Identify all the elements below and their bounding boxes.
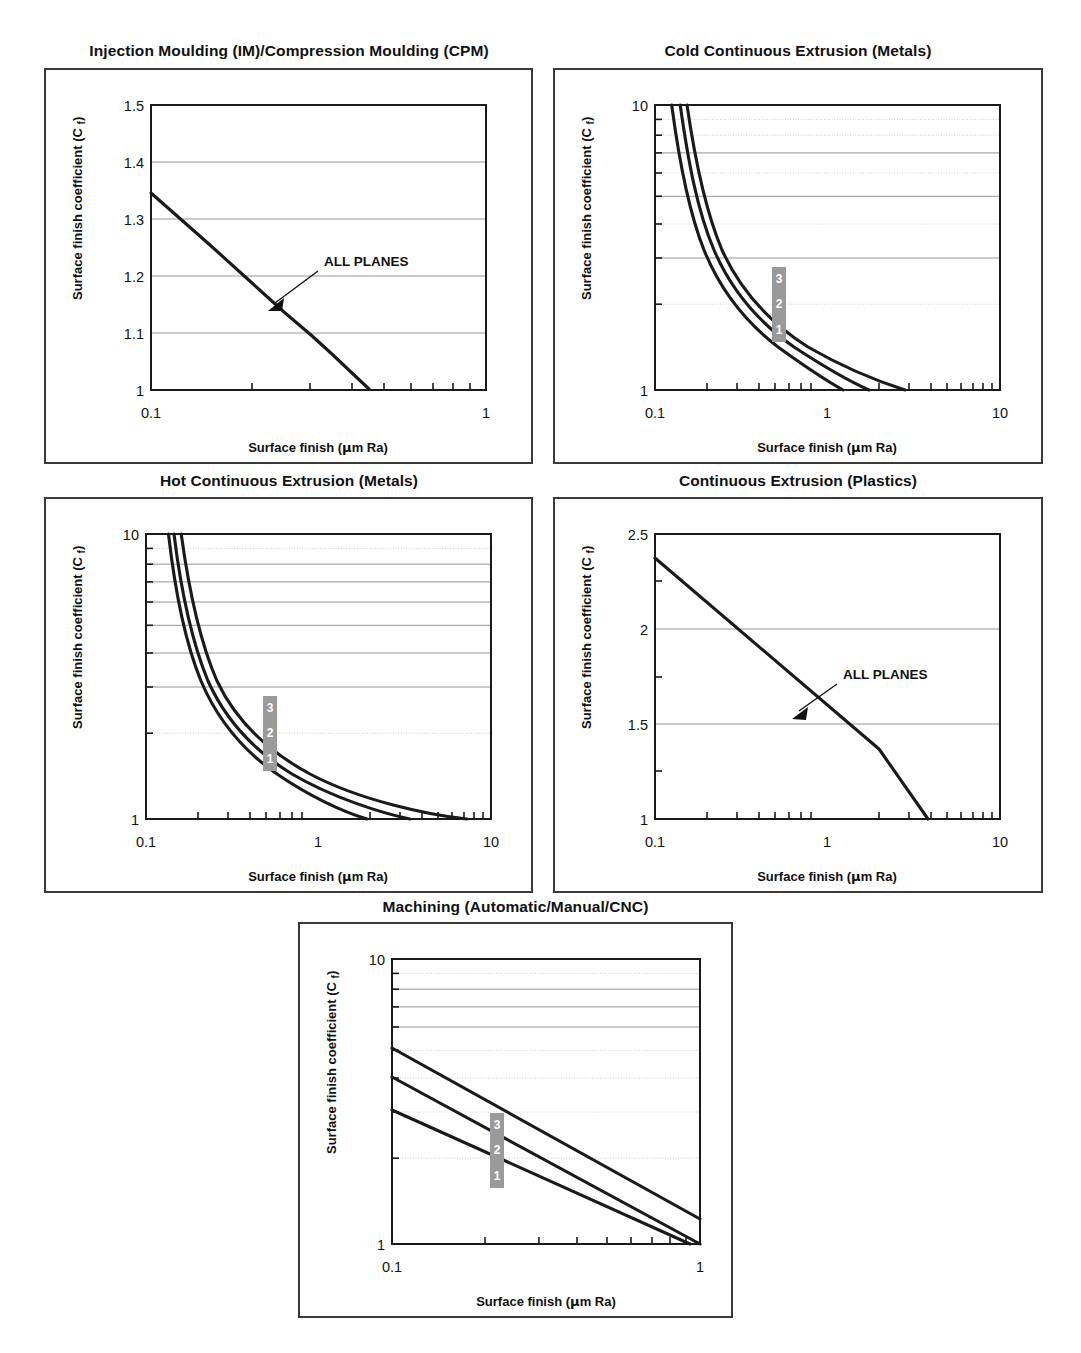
- x-tick-labels: 0.1 1 10: [645, 834, 1008, 850]
- y-minor-ticks: [146, 548, 153, 733]
- gridlines: [655, 119, 1000, 304]
- svg-text:10: 10: [483, 834, 499, 850]
- y-tick-labels: 10 1: [369, 952, 385, 1253]
- y-minor-ticks: [392, 973, 399, 1158]
- svg-text:1.4: 1.4: [124, 155, 144, 171]
- x-tick-labels: 0.1 1: [382, 1259, 704, 1275]
- series-1: [672, 105, 843, 390]
- panel-title-continuous-extrusion-plastics: Continuous Extrusion (Plastics): [553, 472, 1043, 490]
- gridlines: [655, 629, 1000, 724]
- series-all-planes: [655, 558, 928, 819]
- gridlines: [146, 548, 491, 733]
- y-tick-labels: 2.5 2 1.5 1: [628, 527, 648, 828]
- svg-text:1: 1: [696, 1259, 704, 1275]
- chart-cold-continuous-extrusion: Surface finish coefficient (C f) 10 1: [555, 70, 1041, 462]
- panel-cold-continuous-extrusion: Surface finish coefficient (C f) 10 1: [553, 68, 1043, 464]
- plot-frame: [151, 105, 486, 390]
- svg-text:10: 10: [992, 834, 1008, 850]
- svg-text:10: 10: [123, 527, 139, 543]
- annotation-all-planes: ALL PLANES: [268, 254, 409, 311]
- svg-text:2: 2: [267, 726, 274, 740]
- x-tick-labels: 0.1 1 10: [645, 405, 1008, 421]
- svg-text:1: 1: [267, 752, 274, 766]
- plot-frame: [655, 105, 1000, 390]
- x-axis-label: Surface finish (μm Ra): [476, 1294, 616, 1309]
- y-tick-labels: 1.5 1.4 1.3 1.2 1.1 1: [124, 98, 144, 399]
- svg-text:1: 1: [776, 323, 783, 337]
- panel-title-cold-continuous-extrusion: Cold Continuous Extrusion (Metals): [553, 42, 1043, 60]
- svg-text:2: 2: [776, 297, 783, 311]
- svg-text:1.5: 1.5: [124, 98, 144, 114]
- svg-text:1: 1: [131, 812, 139, 828]
- y-axis-label: Surface finish coefficient (C f): [579, 117, 596, 300]
- x-axis-label: Surface finish (μm Ra): [248, 440, 388, 455]
- svg-text:0.1: 0.1: [136, 834, 156, 850]
- svg-text:1: 1: [377, 1237, 385, 1253]
- svg-text:3: 3: [267, 701, 274, 715]
- chart-hot-continuous-extrusion: Surface finish coefficient (C f) 10 1: [46, 499, 531, 891]
- series-2: [174, 534, 410, 819]
- x-minor-ticks: [485, 1237, 686, 1244]
- x-minor-ticks: [707, 383, 992, 390]
- x-axis-label: Surface finish (μm Ra): [757, 869, 897, 884]
- svg-text:1: 1: [640, 812, 648, 828]
- chart-machining: Surface finish coefficient (C f) 10 1: [300, 924, 731, 1316]
- svg-text:1: 1: [823, 405, 831, 421]
- svg-text:1.2: 1.2: [124, 269, 144, 285]
- panel-injection-moulding: Surface finish coefficient (C f) 1.5 1.4…: [44, 68, 533, 464]
- series-2: [392, 1077, 700, 1244]
- series-1: [169, 534, 368, 819]
- panel-title-hot-continuous-extrusion: Hot Continuous Extrusion (Metals): [44, 472, 534, 490]
- y-axis-label: Surface finish coefficient (C f): [579, 546, 596, 729]
- series-2: [680, 105, 869, 390]
- svg-text:1: 1: [640, 383, 648, 399]
- svg-text:1: 1: [136, 383, 144, 399]
- svg-text:0.1: 0.1: [645, 834, 665, 850]
- svg-text:10: 10: [369, 952, 385, 968]
- svg-text:1: 1: [482, 405, 490, 421]
- y-minor-ticks: [655, 119, 662, 304]
- y-axis-label: Surface finish coefficient (C f): [70, 546, 87, 729]
- svg-text:1: 1: [314, 834, 322, 850]
- x-tick-labels: 0.1 1: [141, 405, 490, 421]
- svg-text:3: 3: [776, 272, 783, 286]
- svg-text:0.1: 0.1: [141, 405, 161, 421]
- svg-text:1.3: 1.3: [124, 212, 144, 228]
- x-axis-label: Surface finish (μm Ra): [248, 869, 388, 884]
- svg-text:10: 10: [632, 98, 648, 114]
- y-minor-ticks: [655, 581, 662, 771]
- svg-text:1.5: 1.5: [628, 717, 648, 733]
- y-axis-label: Surface finish coefficient (C f): [324, 971, 341, 1154]
- panel-continuous-extrusion-plastics: Surface finish coefficient (C f) 2.5 2 1…: [553, 497, 1043, 893]
- svg-text:1: 1: [494, 1169, 501, 1183]
- series-badge: 3 2 1: [490, 1113, 504, 1188]
- y-tick-labels: 10 1: [632, 98, 648, 399]
- annotation-label: ALL PLANES: [324, 254, 409, 269]
- x-minor-ticks: [707, 812, 992, 819]
- series-badge: 3 2 1: [263, 696, 277, 771]
- svg-text:1.1: 1.1: [124, 326, 144, 342]
- gridlines: [151, 162, 486, 333]
- chart-injection-moulding: Surface finish coefficient (C f) 1.5 1.4…: [46, 70, 531, 462]
- series-3: [181, 534, 467, 819]
- y-axis-label: Surface finish coefficient (C f): [70, 117, 87, 300]
- panel-title-machining: Machining (Automatic/Manual/CNC): [298, 898, 733, 916]
- plot-frame: [655, 534, 1000, 819]
- svg-text:3: 3: [494, 1118, 501, 1132]
- annotation-label: ALL PLANES: [843, 667, 928, 682]
- svg-text:2: 2: [494, 1143, 501, 1157]
- x-tick-labels: 0.1 1 10: [136, 834, 499, 850]
- svg-text:1: 1: [823, 834, 831, 850]
- panel-machining: Surface finish coefficient (C f) 10 1: [298, 922, 733, 1318]
- x-minor-ticks: [252, 383, 470, 390]
- svg-text:2: 2: [640, 622, 648, 638]
- panel-hot-continuous-extrusion: Surface finish coefficient (C f) 10 1: [44, 497, 533, 893]
- y-tick-labels: 10 1: [123, 527, 139, 828]
- chart-continuous-extrusion-plastics: Surface finish coefficient (C f) 2.5 2 1…: [555, 499, 1041, 891]
- panel-title-injection-moulding: Injection Moulding (IM)/Compression Moul…: [44, 42, 534, 60]
- series-badge: 3 2 1: [772, 267, 786, 342]
- x-axis-label: Surface finish (μm Ra): [757, 440, 897, 455]
- series-all-planes: [151, 193, 369, 389]
- series-3: [392, 1048, 700, 1219]
- svg-text:0.1: 0.1: [382, 1259, 402, 1275]
